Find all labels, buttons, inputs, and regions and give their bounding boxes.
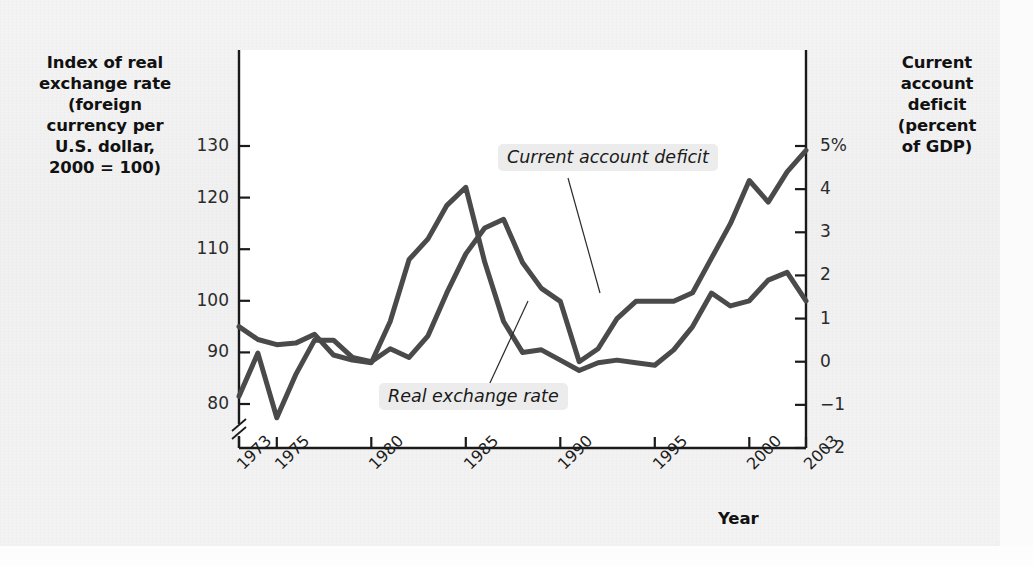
- current-account-deficit-line: [239, 150, 806, 417]
- y-axis-right-tick-label: 1: [820, 308, 866, 328]
- y-axis-left-tick-label: 120: [183, 187, 229, 207]
- y-axis-right-tick-label: 2: [820, 264, 866, 284]
- y-axis-right-tick-label: −1: [820, 394, 866, 414]
- y-axis-left-tick-label: 110: [183, 238, 229, 258]
- page-background: Index of real exchange rate (foreign cur…: [0, 0, 1033, 566]
- y-axis-left-title-line-5: U.S. dollar,: [8, 136, 202, 157]
- y-axis-left-tick-label: 130: [183, 135, 229, 155]
- y-axis-left-title-line-4: currency per: [8, 115, 202, 136]
- y-axis-right-tick-label: 0: [820, 351, 866, 371]
- y-axis-left-title-line-3: (foreign: [8, 94, 202, 115]
- y-axis-left-tick-label: 90: [183, 341, 229, 361]
- y-axis-left-title: Index of real exchange rate (foreign cur…: [8, 52, 202, 178]
- y-axis-right-title: Current account deficit (percent of GDP): [862, 52, 1012, 157]
- y-axis-left-title-line-2: exchange rate: [8, 73, 202, 94]
- current-account-deficit-leader-line: [568, 178, 600, 293]
- y-axis-right-title-line-5: of GDP): [862, 136, 1012, 157]
- y-axis-left-title-line-6: 2000 = 100): [8, 157, 202, 178]
- y-axis-right-title-line-4: (percent: [862, 115, 1012, 136]
- real-exchange-rate-line: [239, 187, 806, 370]
- current-account-deficit-label: Current account deficit: [498, 144, 718, 171]
- y-axis-right-title-line-3: deficit: [862, 94, 1012, 115]
- y-axis-right-tick-label: 4: [820, 178, 866, 198]
- y-axis-left-title-line-1: Index of real: [8, 52, 202, 73]
- x-axis-title: Year: [718, 508, 808, 529]
- y-axis-right-title-line-2: account: [862, 73, 1012, 94]
- real-exchange-rate-label: Real exchange rate: [379, 383, 568, 410]
- y-axis-right-title-line-1: Current: [862, 52, 1012, 73]
- y-axis-left-tick-label: 100: [183, 290, 229, 310]
- y-axis-left-tick-label: 80: [183, 393, 229, 413]
- real-exchange-rate-leader-line: [489, 301, 528, 385]
- y-axis-right-tick-label: 5%: [820, 135, 866, 155]
- y-axis-right-tick-label: 3: [820, 221, 866, 241]
